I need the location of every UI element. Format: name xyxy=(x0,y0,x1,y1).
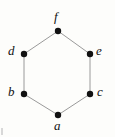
node-layer xyxy=(21,28,93,118)
vertex-label-c: c xyxy=(97,85,103,98)
vertex-dot-f xyxy=(55,28,61,34)
vertex-dot-c xyxy=(87,91,93,97)
hexagon-edge-f-d xyxy=(24,31,58,54)
hexagon-diagram: f d e b c a xyxy=(0,0,115,137)
hexagon-edge-f-e xyxy=(58,31,90,54)
vertex-dot-e xyxy=(87,51,93,57)
edge-layer xyxy=(24,31,90,115)
vertex-dot-d xyxy=(21,51,27,57)
hexagon-edge-c-a xyxy=(58,94,90,115)
vertex-label-e: e xyxy=(96,44,102,57)
vertex-label-b: b xyxy=(8,85,15,98)
vertex-dot-b xyxy=(21,91,27,97)
hexagon-edge-b-a xyxy=(24,94,58,115)
vertex-label-d: d xyxy=(8,44,15,57)
vertex-label-a: a xyxy=(54,119,61,132)
vertex-label-f: f xyxy=(54,10,58,23)
scan-artifact xyxy=(1,128,3,135)
